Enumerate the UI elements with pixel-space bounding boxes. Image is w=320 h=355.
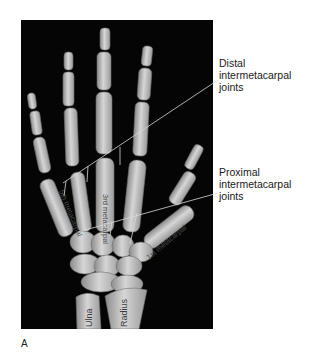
carpal-bones bbox=[70, 231, 153, 293]
ulna-label: Ulna bbox=[84, 308, 94, 327]
proximal-intermetacarpal-joints-callout: Proximal intermetacarpal joints bbox=[219, 166, 291, 202]
callout-line: Distal bbox=[219, 57, 291, 69]
index-finger-bones bbox=[122, 46, 153, 233]
callout-line: intermetacarpal bbox=[219, 69, 291, 81]
hand-skeleton-drawing: 5th metacarpal 3rd metacarpal 1st metaca… bbox=[21, 20, 213, 329]
distal-intermetacarpal-joints-callout: Distal intermetacarpal joints bbox=[219, 57, 291, 93]
hand-skeleton-image: 5th metacarpal 3rd metacarpal 1st metaca… bbox=[21, 20, 213, 329]
third-metacarpal-label: 3rd metacarpal bbox=[101, 194, 110, 244]
callout-line: Proximal bbox=[219, 166, 291, 178]
callout-line: intermetacarpal bbox=[219, 178, 291, 190]
callout-line: joints bbox=[219, 81, 291, 93]
callout-line: joints bbox=[219, 190, 291, 202]
radius-label: Radius bbox=[119, 298, 129, 327]
panel-letter: A bbox=[21, 338, 28, 349]
